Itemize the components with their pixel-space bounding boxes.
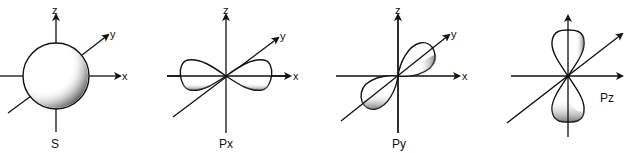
y-label: y	[451, 28, 457, 40]
x-label: x	[293, 70, 299, 82]
y-axis	[341, 35, 449, 121]
orbital-label-pz: Pz	[600, 91, 614, 105]
pz-orbital: Pz	[507, 16, 622, 137]
s-orbital: z y x S	[0, 4, 128, 151]
x-label: x	[122, 70, 128, 82]
px-orbital: z y x Px	[167, 4, 299, 151]
orbital-diagram: z y x S z y x Px z y x Py	[0, 0, 629, 153]
y-axis	[82, 35, 108, 55]
x-label: x	[462, 70, 468, 82]
orbital-label-py: Py	[392, 137, 406, 151]
orbital-label-px: Px	[219, 137, 233, 151]
z-label: z	[395, 4, 401, 16]
y-axis-neg	[8, 96, 31, 113]
y-label: y	[280, 30, 286, 42]
orbital-label-s: S	[51, 137, 59, 151]
py-orbital: z y x Py	[336, 4, 468, 151]
z-label: z	[223, 4, 229, 16]
z-label: z	[52, 4, 58, 16]
y-label: y	[110, 28, 116, 40]
